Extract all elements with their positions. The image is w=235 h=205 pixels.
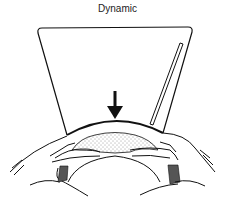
rod [150,43,183,125]
arrow-down-icon [107,91,123,119]
dynamic-diagram [0,0,235,205]
